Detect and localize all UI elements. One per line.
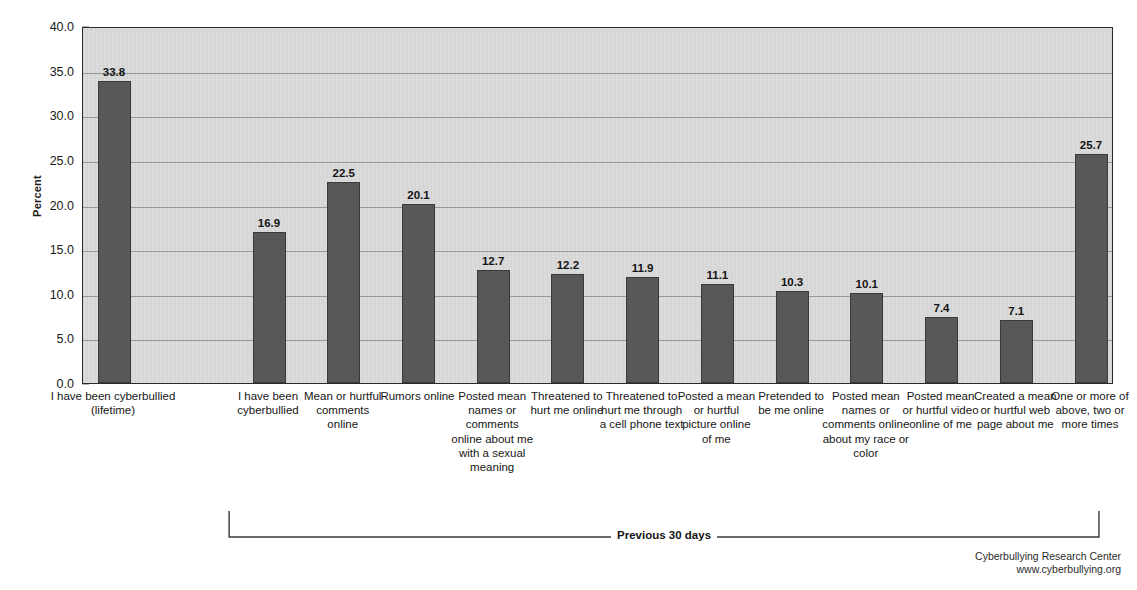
x-category-label: I have been cyberbullied (lifetime) [47, 389, 179, 417]
x-category-label: Rumors online [378, 389, 456, 403]
bar [1075, 154, 1108, 383]
bar [776, 291, 809, 383]
bar-value-label: 10.1 [856, 278, 878, 290]
bar-value-label: 20.1 [407, 189, 429, 201]
x-category-label: Posted mean or hurtful video online of m… [901, 389, 981, 432]
bar-value-label: 16.9 [258, 217, 280, 229]
bracket-label: Previous 30 days [611, 529, 717, 541]
y-tick-label-25.0: 25.0 [4, 154, 74, 168]
y-tick-label-35.0: 35.0 [4, 65, 74, 79]
bar-value-label: 25.7 [1080, 139, 1102, 151]
x-category-label: Threatened to hurt me through a cell pho… [598, 389, 686, 432]
bar-value-label: 7.1 [1008, 305, 1024, 317]
gridline [83, 296, 1112, 297]
plot-area: 33.816.922.520.112.712.211.911.110.310.1… [82, 27, 1113, 384]
y-tick-label-20.0: 20.0 [4, 199, 74, 213]
x-category-label: Created a mean or hurtful web page about… [973, 389, 1057, 432]
x-category-label: I have been cyberbullied [229, 389, 307, 417]
x-category-label: Posted mean names or comments online abo… [821, 389, 911, 460]
bar-value-label: 10.3 [781, 276, 803, 288]
y-axis-tick-labels: 0.05.010.015.020.025.030.035.040.0 [0, 0, 80, 590]
x-category-label: Posted mean names or comments online abo… [449, 389, 535, 474]
bar-value-label: 33.8 [103, 66, 125, 78]
y-tick-label-40.0: 40.0 [4, 20, 74, 34]
credit-website: www.cyberbullying.org [975, 563, 1121, 576]
bar [626, 277, 659, 383]
bar [98, 81, 131, 383]
y-tick-label-30.0: 30.0 [4, 109, 74, 123]
bar-value-label: 7.4 [934, 302, 950, 314]
gridline [83, 73, 1112, 74]
gridline [83, 207, 1112, 208]
x-category-label: Mean or hurtful comments online [304, 389, 382, 432]
credit-organization: Cyberbullying Research Center [975, 550, 1121, 563]
bar-value-label: 11.1 [706, 269, 728, 281]
bar-value-label: 12.2 [557, 259, 579, 271]
y-tick-label-10.0: 10.0 [4, 288, 74, 302]
y-tick-label-15.0: 15.0 [4, 243, 74, 257]
bar [701, 284, 734, 383]
bar [925, 317, 958, 383]
gridline [83, 251, 1112, 252]
credit-block: Cyberbullying Research Center www.cyberb… [975, 550, 1121, 576]
bar [1000, 320, 1033, 383]
gridline [83, 162, 1112, 163]
x-category-label: Pretended to be me online [752, 389, 830, 417]
bar [402, 204, 435, 383]
bar-value-label: 11.9 [632, 262, 654, 274]
bar [477, 270, 510, 383]
bar [253, 232, 286, 383]
x-category-label: One or more of above, two or more times [1051, 389, 1129, 432]
x-category-label: Posted a mean or hurtful picture online … [676, 389, 756, 446]
bar-value-label: 12.7 [482, 255, 504, 267]
x-category-label: Threatened to hurt me online [527, 389, 607, 417]
y-tick-label-5.0: 5.0 [4, 332, 74, 346]
bar [850, 293, 883, 383]
bar [551, 274, 584, 383]
bar-value-label: 22.5 [333, 167, 355, 179]
bar-chart: Percent 0.05.010.015.020.025.030.035.040… [0, 0, 1137, 590]
bar [327, 182, 360, 383]
gridline [83, 117, 1112, 118]
